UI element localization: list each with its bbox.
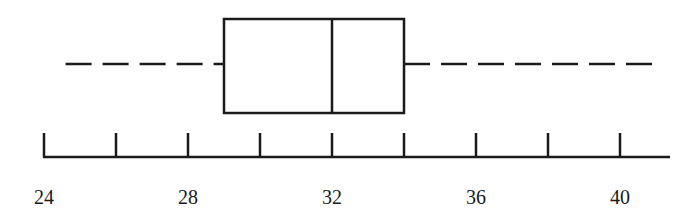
x-axis-tick-label: 36 [466,186,486,208]
box-plot [66,19,656,113]
x-axis-tick-label: 32 [322,186,342,208]
x-axis [43,133,670,157]
x-axis-tick-label: 24 [34,186,54,208]
iqr-box [224,19,404,113]
box-plot-chart: 2428323640 [0,0,694,220]
x-axis-tick-label: 28 [178,186,198,208]
x-axis-tick-label: 40 [610,186,630,208]
x-axis-tick-labels: 2428323640 [34,186,630,208]
